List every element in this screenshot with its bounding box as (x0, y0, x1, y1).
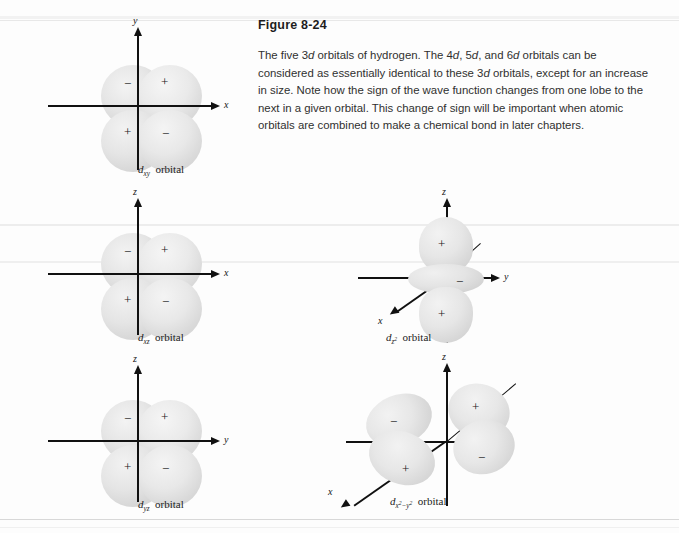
orbital-subscript: xz (144, 338, 150, 346)
figure-title: Figure 8-24 (258, 18, 650, 32)
figure-page: Figure 8-24 The five 3d orbitals of hydr… (0, 0, 679, 533)
orbital-diagram-dx2y2: z y x − + + − dx2−y2 orbital (310, 358, 540, 518)
scan-artifact-line (0, 527, 679, 528)
lobe-sign-top-left: − (124, 77, 131, 90)
orbital-subscript-mid: −y (402, 502, 410, 510)
axis-arrow-right-icon (211, 437, 220, 445)
axis-label-horizontal: x (224, 99, 228, 110)
orbital-subscript-exponent: 2 (394, 336, 397, 342)
orbital-suffix: orbital (155, 331, 184, 343)
axis-arrow-right-icon (491, 274, 500, 282)
axis-label-horizontal: y (224, 434, 228, 445)
lobe-sign-bottom-left: + (402, 462, 409, 475)
orbital-diagram-dyz: − + + − z y dyz orbital (36, 358, 241, 518)
axis-vertical (137, 34, 139, 170)
lobe-sign-top-right: + (161, 75, 168, 88)
axis-horizontal (48, 440, 213, 442)
lobe-sign-top: + (438, 237, 445, 250)
axis-label-vertical: y (133, 15, 137, 26)
orbital-suffix: orbital (155, 163, 184, 175)
axis-label-horizontal: x (224, 267, 228, 278)
axis-horizontal (48, 105, 213, 107)
orbital-subscript: x2−y2 (396, 502, 413, 510)
lobe-sign-bottom: + (438, 307, 445, 320)
axis-label-vertical: z (442, 186, 446, 197)
lobe-sign-bottom-right: − (162, 127, 169, 140)
orbital-label-dxz: dxz orbital (138, 331, 184, 346)
lobe-sign-top-right: + (161, 410, 168, 423)
orbital-suffix: orbital (403, 331, 432, 343)
lobe-sign-torus: − (456, 275, 463, 288)
lobe-sign-bottom-right: − (162, 462, 169, 475)
axis-vertical (137, 205, 139, 335)
axis-arrow-up-icon (134, 27, 142, 36)
orbital-suffix: orbital (418, 495, 447, 507)
axis-label-vertical: z (442, 351, 446, 362)
lobe-sign-bottom-left: + (124, 460, 131, 473)
lobe-sign-bottom-left: + (124, 293, 131, 306)
axis-arrow-depth-icon (339, 499, 351, 511)
lobe-sign-top-right: + (161, 243, 168, 256)
orbital-diagram-dz2: z y x + − + dz2 orbital (310, 193, 525, 353)
figure-caption-text: The five 3d orbitals of hydrogen. The 4d… (258, 47, 650, 135)
axis-arrow-up-icon (443, 363, 451, 372)
axis-arrow-right-icon (211, 270, 220, 278)
axis-label-vertical: z (133, 353, 137, 364)
orbital-subscript: xy (144, 170, 150, 178)
orbital-subscript: z2 (392, 338, 398, 346)
lobe-sign-top-left: − (390, 415, 397, 428)
lobe-sign-bottom-left: + (124, 125, 131, 138)
orbital-label-dyz: dyz orbital (138, 498, 184, 513)
orbital-subscript-exponent2: 2 (410, 500, 413, 506)
axis-label-depth: x (328, 486, 332, 497)
orbital-label-dxy: dxy orbital (138, 163, 184, 178)
axis-arrow-up-icon (134, 365, 142, 374)
lobe-sign-top-left: − (124, 245, 131, 258)
axis-arrow-up-icon (443, 198, 451, 207)
orbital-diagram-dxy: − + + − y x dxy orbital (36, 18, 241, 183)
axis-vertical (446, 370, 448, 506)
orbital-diagram-dxz: − + + − z x dxz orbital (36, 193, 241, 353)
axis-arrow-depth-icon (388, 306, 400, 318)
axis-arrow-up-icon (134, 198, 142, 207)
orbital-label-dx2y2: dx2−y2 orbital (390, 495, 447, 510)
axis-arrow-right-icon (211, 102, 220, 110)
figure-caption-block: Figure 8-24 The five 3d orbitals of hydr… (258, 18, 650, 135)
axis-horizontal (48, 273, 213, 275)
lobe-sign-top-left: − (124, 412, 131, 425)
orbital-subscript: yz (144, 505, 150, 513)
lobe-sign-bottom-right: − (162, 295, 169, 308)
axis-vertical (137, 372, 139, 502)
lobe-sign-bottom-right: − (478, 451, 485, 464)
orbital-label-dz2: dz2 orbital (386, 331, 431, 346)
lobe-sign-top-right: + (472, 400, 479, 413)
axis-label-horizontal: y (504, 271, 508, 282)
axis-label-depth: x (378, 315, 382, 326)
axis-label-vertical: z (133, 186, 137, 197)
scan-artifact-line (0, 519, 679, 520)
orbital-suffix: orbital (155, 498, 184, 510)
